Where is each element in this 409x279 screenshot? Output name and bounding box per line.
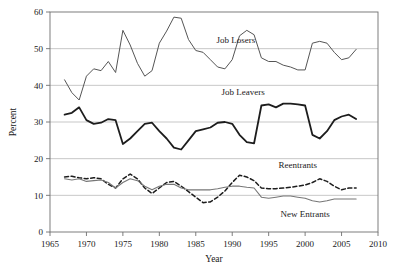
ytick-label-0: 0 xyxy=(39,227,44,237)
xtick-label-2005: 2005 xyxy=(333,239,352,249)
ytick-label-10: 10 xyxy=(34,191,44,201)
xtick-label-2010: 2010 xyxy=(369,239,388,249)
ytick-label-50: 50 xyxy=(34,44,44,54)
xtick-label-1980: 1980 xyxy=(150,239,169,249)
x-axis-title: Year xyxy=(205,254,223,264)
xtick-label-1965: 1965 xyxy=(41,239,60,249)
unemployment-reason-chart: 0102030405060196519701975198019851990199… xyxy=(0,0,409,279)
series-label-job-leavers: Job Leavers xyxy=(222,87,266,97)
xtick-label-1995: 1995 xyxy=(260,239,279,249)
series-line-job-leavers xyxy=(65,104,357,150)
xtick-label-1990: 1990 xyxy=(223,239,242,249)
xtick-label-1970: 1970 xyxy=(77,239,96,249)
ytick-label-60: 60 xyxy=(34,7,44,17)
ytick-label-40: 40 xyxy=(34,81,44,91)
cropped-header-text xyxy=(150,0,152,8)
series-label-job-losers: Job Losers xyxy=(216,35,255,45)
ytick-label-20: 20 xyxy=(34,154,44,164)
chart-canvas: 0102030405060196519701975198019851990199… xyxy=(0,0,409,279)
series-label-reentrants: Reentrants xyxy=(279,160,318,170)
xtick-label-2000: 2000 xyxy=(296,239,315,249)
y-axis-title: Percent xyxy=(8,107,18,136)
series-label-new-entrants: New Entrants xyxy=(280,209,330,219)
series-line-job-losers xyxy=(65,17,357,100)
ytick-label-30: 30 xyxy=(34,117,44,127)
xtick-label-1975: 1975 xyxy=(114,239,133,249)
series-line-reentrants xyxy=(65,174,357,203)
xtick-label-1985: 1985 xyxy=(187,239,206,249)
